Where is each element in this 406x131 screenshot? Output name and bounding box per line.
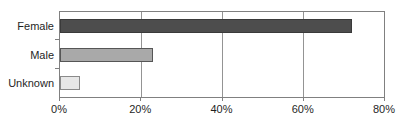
x-tick-label-40%: 40% xyxy=(210,103,232,115)
bar-female xyxy=(60,19,352,33)
x-tick-label-80%: 80% xyxy=(373,103,395,115)
plot-area xyxy=(59,11,385,98)
gender-distribution-bar-chart: FemaleMaleUnknown 0%20%40%60%80% xyxy=(0,0,406,131)
x-tick-label-20%: 20% xyxy=(129,103,151,115)
category-label-unknown: Unknown xyxy=(0,77,54,89)
bar-male xyxy=(60,48,153,62)
y-tick-mark-1 xyxy=(55,39,59,40)
x-tick-label-0%: 0% xyxy=(51,103,67,115)
x-tick-mark-20% xyxy=(140,97,141,101)
category-label-female: Female xyxy=(0,20,54,32)
y-tick-mark-2 xyxy=(55,68,59,69)
x-tick-mark-60% xyxy=(303,97,304,101)
bar-unknown xyxy=(60,76,80,90)
x-tick-mark-40% xyxy=(222,97,223,101)
x-tick-mark-80% xyxy=(384,97,385,101)
category-label-male: Male xyxy=(0,49,54,61)
x-tick-label-60%: 60% xyxy=(292,103,314,115)
x-tick-mark-0% xyxy=(59,97,60,101)
